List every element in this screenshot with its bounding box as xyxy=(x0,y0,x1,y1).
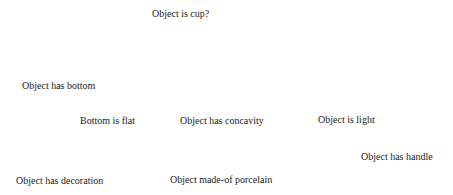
node-object-has-bottom: Object has bottom xyxy=(22,80,95,92)
node-object-has-handle: Object has handle xyxy=(361,151,433,163)
node-object-has-decoration: Object has decoration xyxy=(16,175,103,187)
node-bottom-is-flat: Bottom is flat xyxy=(80,115,135,127)
node-object-is-light: Object is light xyxy=(318,114,375,126)
node-object-has-concavity: Object has concavity xyxy=(180,115,264,127)
node-object-is-cup: Object is cup? xyxy=(152,8,209,20)
node-object-made-of-porcelain: Object made-of porcelain xyxy=(170,174,272,186)
diagram-canvas: Object is cup? Object has bottom Bottom … xyxy=(0,0,453,195)
